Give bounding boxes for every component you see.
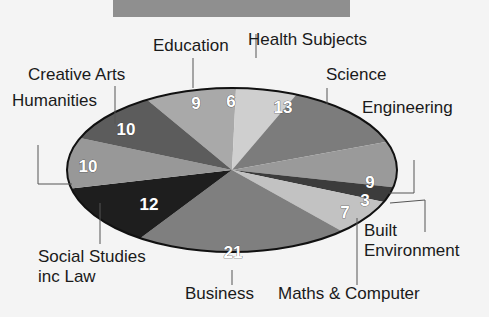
value-label: 9: [191, 94, 200, 113]
category-label: Creative Arts: [28, 65, 125, 84]
value-label: 3: [360, 191, 369, 210]
value-label: 6: [226, 92, 235, 111]
category-label: BuiltEnvironment: [364, 221, 460, 260]
pie-slices: [67, 88, 397, 252]
value-label: 7: [340, 203, 349, 222]
category-label: Education: [153, 36, 229, 55]
category-label: Maths & Computer: [278, 284, 420, 303]
category-label: Science: [326, 65, 386, 84]
value-label: 12: [140, 195, 159, 214]
value-label: 9: [365, 173, 374, 192]
pie-chart: 961393721121010 EducationHealth Subjects…: [0, 0, 489, 317]
category-label: Humanities: [12, 91, 97, 110]
category-label: Engineering: [362, 98, 453, 117]
value-label: 21: [224, 243, 243, 262]
category-label: Business: [185, 284, 254, 303]
value-label: 13: [274, 98, 293, 117]
category-label: Health Subjects: [248, 30, 367, 49]
value-label: 10: [79, 157, 98, 176]
value-label: 10: [117, 120, 136, 139]
category-label: Social Studiesinc Law: [38, 247, 146, 286]
